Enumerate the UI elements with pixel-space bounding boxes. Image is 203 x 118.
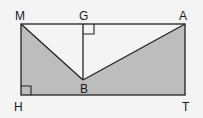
label-m: M xyxy=(15,9,25,23)
shaded-region xyxy=(21,24,185,95)
label-a: A xyxy=(179,9,187,23)
label-b: B xyxy=(80,82,88,96)
label-h: H xyxy=(14,100,23,114)
label-g: G xyxy=(79,9,88,23)
geometry-diagram: M G A B H T xyxy=(0,0,203,118)
label-t: T xyxy=(182,100,190,114)
right-angle-g-icon xyxy=(83,24,94,34)
